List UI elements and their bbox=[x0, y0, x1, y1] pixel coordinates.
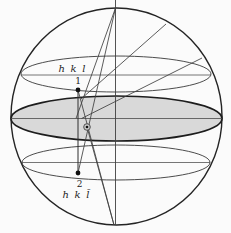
upper-layer-circle bbox=[21, 56, 211, 92]
point-2-dot bbox=[76, 171, 81, 176]
label-point-2: 2 bbox=[77, 179, 83, 189]
figure-canvas: h k l 1 2 h k l̄ bbox=[0, 0, 231, 233]
label-hkl-upper: h k l bbox=[58, 63, 86, 74]
origin-dot bbox=[86, 126, 89, 129]
label-hkl-lower: h k l̄ bbox=[62, 189, 91, 200]
label-point-1: 1 bbox=[75, 76, 81, 86]
oblique-line-upper bbox=[81, 24, 166, 99]
top-pole-to-point-2-line bbox=[78, 8, 116, 173]
point-1-dot bbox=[76, 88, 81, 93]
sphere-diagram: h k l 1 2 h k l̄ bbox=[0, 0, 231, 233]
